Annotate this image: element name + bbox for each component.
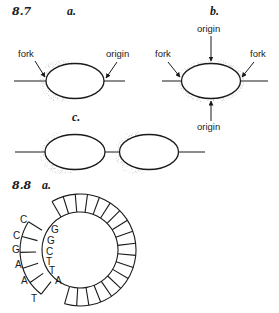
bottom-origin-label: origin [197,121,220,132]
displaced-rung [30,273,43,282]
base-pair-rung [112,220,127,230]
base-pair-rung [85,195,87,213]
base-pair-rung [101,281,111,296]
replication-bubble [182,64,241,99]
inner-strand-arc [61,212,118,288]
base-pair-rung [107,211,120,224]
base-pair-rung [118,243,136,245]
base-pair-rung [63,197,68,214]
base-pair-rung [75,194,77,212]
base-pair-rung [116,231,133,237]
base-pair-rung [52,202,61,218]
displaced-rung [22,236,37,240]
base-letter: C [13,230,20,241]
right-fork-label: fork [250,48,266,59]
inner-strand-bases: G G C T T A [46,224,62,286]
origin-label: origin [106,48,129,59]
base-letter: G [12,244,20,255]
replication-figure: 8.7 a. fork origin b. origin origin fork… [0,0,279,313]
base-letter: A [55,275,62,286]
circular-dna-ring [20,194,136,306]
replication-bubble-2 [120,135,179,170]
displaced-rung [41,282,51,295]
base-pair-rung [108,276,121,288]
base-pair-rung [101,203,111,218]
base-pair-rung [113,269,128,278]
panel-label-c: c. [72,110,80,124]
panel-8-7a: a. fork origin [14,4,129,100]
panel-8-7b: b. origin origin fork fork [155,4,268,132]
replication-bubble [46,64,104,99]
panel-label-8-8a: a. [42,178,51,192]
base-letter: G [51,224,59,235]
figure-number-8-7: 8.7 [12,5,31,18]
right-fork-arrow-icon [242,62,254,77]
fork-label: fork [18,48,34,59]
base-pair-rung [65,287,70,304]
left-fork-label: fork [155,48,171,59]
base-letter: G [47,235,55,246]
base-letter: A [15,259,22,270]
base-letter: A [21,275,28,286]
origin-arrow-icon [106,62,117,78]
top-origin-label: origin [197,23,220,34]
base-letter: C [20,214,27,225]
base-pair-rung [93,197,99,214]
displaced-rung [23,263,38,268]
outer-strand-bases: C C G A A T [12,214,37,304]
base-pair-rung [77,288,78,306]
panel-8-7c: c. [15,110,205,172]
base-pair-rung [94,285,101,302]
base-letter: T [31,293,37,304]
figure-number-8-8: 8.8 [12,179,31,192]
panel-label-a: a. [67,4,76,18]
panel-label-b: b. [210,4,219,18]
left-fork-arrow-icon [168,62,180,77]
displaced-rung [28,222,42,230]
base-pair-rung [118,254,136,256]
replication-bubble-1 [45,135,105,170]
base-pair-rung [116,262,133,268]
base-pair-rung [86,288,89,306]
